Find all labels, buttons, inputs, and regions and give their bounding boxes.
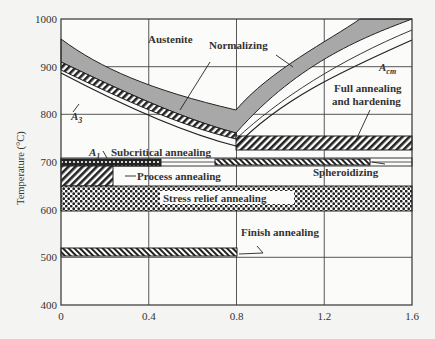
svg-text:1.2: 1.2 <box>317 310 331 322</box>
process-annealing-band <box>61 166 113 186</box>
svg-text:400: 400 <box>41 299 58 311</box>
process-annealing-label: Process annealing <box>137 170 221 182</box>
spheroidizing-band <box>215 159 370 165</box>
normalizing-label: Normalizing <box>209 39 268 51</box>
finish-annealing-label: Finish annealing <box>241 226 319 238</box>
svg-text:800: 800 <box>41 108 58 120</box>
finish-annealing-band <box>61 248 237 256</box>
y-axis-ticks: 1000 900 800 700 600 500 400 <box>35 13 58 311</box>
full-annealing-label-1: Full annealing <box>334 82 402 94</box>
y-axis-label: Temperature (°C) <box>15 131 27 205</box>
subcritical-annealing-band <box>61 159 161 166</box>
full-annealing-label-2: and hardening <box>332 95 401 107</box>
svg-text:700: 700 <box>41 156 58 168</box>
x-axis-ticks: 0 0.4 0.8 1.2 1.6 <box>58 310 419 322</box>
austenite-label: Austenite <box>148 33 193 45</box>
svg-text:0.4: 0.4 <box>142 310 156 322</box>
heat-treatment-diagram: Austenite Normalizing Acm A3 A1 Full ann… <box>0 0 435 339</box>
svg-text:500: 500 <box>41 251 58 263</box>
svg-text:1000: 1000 <box>35 13 58 25</box>
svg-text:1.6: 1.6 <box>405 310 419 322</box>
svg-text:0.8: 0.8 <box>230 310 244 322</box>
svg-text:600: 600 <box>41 204 58 216</box>
svg-text:0: 0 <box>58 310 64 322</box>
full-annealing-band-right <box>236 136 412 150</box>
stress-relief-label: Stress relief annealing <box>163 192 267 204</box>
subcritical-label: Subcritical annealing <box>111 146 211 158</box>
spheroidizing-label: Spheroidizing <box>313 166 379 178</box>
svg-text:900: 900 <box>41 61 58 73</box>
